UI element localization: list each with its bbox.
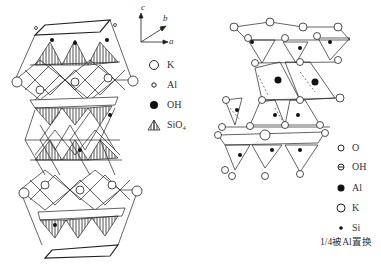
left-crystal-structure — [0, 0, 150, 265]
legend-oh-label: OH — [167, 100, 181, 110]
axis-a-label: a — [169, 37, 174, 46]
legend-si-label: Si — [352, 223, 360, 233]
legend-al-label: Al — [167, 80, 177, 90]
substitution-note: 1/4被Al置换 — [320, 238, 372, 248]
legend-oh-label-right: OH — [352, 162, 366, 172]
axis-b-label: b — [163, 14, 168, 23]
legend-k-label: K — [167, 60, 174, 70]
legend-al-label-right: Al — [352, 183, 362, 193]
legend-sio4-label: SiO₄ — [167, 120, 186, 130]
legend-o-label: O — [352, 143, 359, 153]
axis-c-label: c — [141, 3, 145, 12]
legend-k-label-right: K — [352, 203, 359, 213]
